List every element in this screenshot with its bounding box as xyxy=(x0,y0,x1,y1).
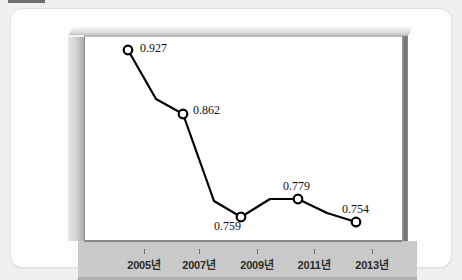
x-tick-0 xyxy=(144,249,145,254)
x-axis-label-2011: 2011년 xyxy=(298,256,331,272)
x-axis-label-2005: 2005년 xyxy=(127,256,160,272)
data-line-path xyxy=(128,50,356,222)
x-axis-label-2007: 2007년 xyxy=(182,256,215,272)
data-label-1: 0.862 xyxy=(193,103,220,118)
top-edge-artifact xyxy=(8,0,45,3)
data-marker xyxy=(124,46,133,55)
data-label-2: 0.759 xyxy=(214,219,241,234)
data-label-4: 0.754 xyxy=(342,202,369,217)
data-marker xyxy=(352,218,361,227)
data-marker xyxy=(294,195,303,204)
x-tick-4 xyxy=(372,249,373,254)
series-polyline xyxy=(128,50,356,222)
data-markers xyxy=(124,46,361,227)
x-axis-labels: 2005년 2007년 2009년 2011년 2013년 xyxy=(84,249,402,269)
x-axis-label-2013: 2013년 xyxy=(355,256,388,272)
x-tick-3 xyxy=(314,249,315,254)
series-line xyxy=(128,50,298,235)
data-label-0: 0.927 xyxy=(140,41,167,56)
data-marker xyxy=(179,110,188,119)
x-tick-1 xyxy=(199,249,200,254)
chart-card: 0.927 0.862 0.759 0.779 0.754 2005년 2007… xyxy=(10,8,452,268)
x-axis-label-2009: 2009년 xyxy=(240,256,273,272)
series-svg xyxy=(68,27,418,267)
data-label-3: 0.779 xyxy=(283,179,310,194)
line-chart-3d: 0.927 0.862 0.759 0.779 0.754 2005년 2007… xyxy=(68,27,418,267)
x-tick-2 xyxy=(257,249,258,254)
